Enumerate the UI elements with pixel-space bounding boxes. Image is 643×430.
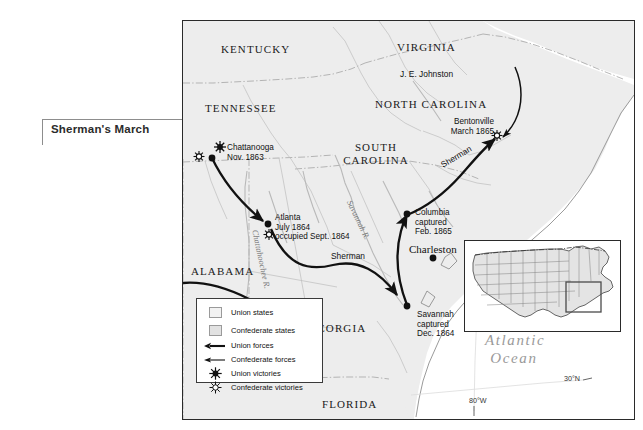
route-label-johnston: J. E. Johnston [400, 69, 453, 79]
confederate-victory-sunburst-icon [203, 381, 227, 394]
legend-row-union-victories: Union victories [203, 367, 322, 381]
legend-row-confederate-victories: Confederate victories [203, 381, 322, 395]
state-label-virginia: VIRGINIA [397, 41, 456, 53]
map-legend: Union states Confederate states Union fo… [196, 298, 323, 383]
ocean-label-atlantic: Atlantic Ocean [485, 331, 545, 367]
legend-row-union-forces: Union forces [203, 339, 322, 353]
union-victory-sunburst-icon [203, 367, 227, 380]
legend-label-union-victories: Union victories [231, 369, 281, 378]
legend-label-confederate-victories: Confederate victories [231, 383, 303, 392]
state-label-south-carolina: SOUTHCAROLINA [338, 141, 414, 166]
legend-row-confederate-forces: Confederate forces [203, 353, 322, 367]
inset-locator-map [464, 240, 621, 332]
confederate-forces-arrow-icon [203, 356, 227, 364]
route-label-sherman-georgia: Sherman [331, 251, 365, 261]
caption-accent-bar [42, 119, 43, 145]
coord-label-30n: 30°N [564, 374, 580, 383]
sunburst-union-chattanooga [214, 141, 226, 153]
state-label-north-carolina: NORTH CAROLINA [375, 98, 487, 110]
union-forces-arrow-icon [203, 342, 227, 350]
page-root: Sherman's March [0, 0, 643, 430]
state-label-alabama: ALABAMA [191, 265, 254, 277]
state-label-tennessee: TENNESSEE [205, 102, 277, 114]
legend-label-confederate-forces: Confederate forces [231, 355, 296, 364]
city-label-atlanta: AtlantaJuly 1864occupied Sept. 1864 [275, 213, 350, 242]
city-label-columbia: ColumbiacapturedFeb. 1865 [415, 208, 452, 237]
state-label-kentucky: KENTUCKY [221, 43, 290, 55]
sunburst-confederate-chickamauga [194, 151, 205, 162]
page-title: Sherman's March [51, 123, 149, 135]
inset-us-map-graphic [465, 241, 619, 330]
map-frame: KENTUCKY VIRGINIA TENNESSEE NORTH CAROLI… [182, 20, 635, 420]
state-label-florida: FLORIDA [322, 398, 377, 410]
legend-label-union-forces: Union forces [231, 341, 274, 350]
city-label-bentonville: BentonvilleMarch 1865 [426, 117, 494, 136]
legend-label-confederate-states: Confederate states [231, 326, 295, 335]
confederate-states-swatch-icon [203, 325, 227, 336]
sunburst-confederate-atlanta [264, 229, 275, 240]
union-states-swatch-icon [203, 307, 227, 318]
coord-label-80w: 80°W [469, 396, 487, 405]
city-label-charleston: Charleston [409, 243, 457, 255]
legend-row-confederate-states: Confederate states [203, 322, 322, 339]
legend-label-union-states: Union states [231, 308, 273, 317]
city-label-savannah: SavannahcapturedDec. 1864 [417, 310, 454, 339]
city-label-chattanooga: ChattanoogaNov. 1863 [227, 143, 274, 162]
legend-row-union-states: Union states [203, 304, 322, 321]
